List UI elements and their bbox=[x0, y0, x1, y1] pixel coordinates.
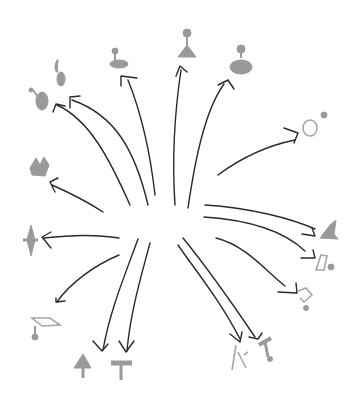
hook-icon bbox=[56, 60, 65, 86]
cone-lamp-icon bbox=[178, 29, 196, 57]
arrow-to-t-stool bbox=[119, 243, 150, 352]
arrow-to-crown bbox=[50, 178, 103, 212]
arrow-to-saxophone bbox=[53, 104, 130, 205]
arrow-to-cone-lamp bbox=[174, 66, 187, 205]
bird-figure-icon bbox=[320, 220, 338, 239]
funnel-icon bbox=[316, 255, 334, 270]
spindle-icon bbox=[23, 225, 38, 256]
t-stool-icon bbox=[111, 363, 132, 380]
arrow-to-chair bbox=[216, 238, 297, 293]
arrow-to-t-figure bbox=[183, 238, 262, 339]
arrow-to-hook bbox=[70, 96, 148, 205]
radial-sketch-diagram bbox=[0, 0, 356, 410]
blob-knob-icon bbox=[230, 45, 252, 74]
arrow-to-spindle bbox=[42, 232, 119, 248]
arrow-to-blob-knob bbox=[188, 80, 234, 208]
twig-figure-icon bbox=[232, 345, 248, 370]
graduation-cap-icon bbox=[32, 318, 60, 340]
arrow-to-bird-figure bbox=[205, 205, 315, 236]
arrow-to-twig-figure bbox=[178, 245, 242, 342]
arrow-to-ring bbox=[218, 128, 298, 175]
mushroom-icon bbox=[74, 354, 91, 378]
chair-outline-icon bbox=[298, 288, 312, 311]
arrow-to-disc-stand bbox=[121, 76, 155, 195]
crown-scribble-icon bbox=[30, 157, 49, 176]
saxophone-icon bbox=[29, 88, 48, 110]
t-figure-icon bbox=[259, 338, 273, 362]
arrow-to-graduation-cap bbox=[56, 255, 119, 302]
disc-stand-icon bbox=[110, 48, 128, 68]
ring-icon bbox=[303, 112, 327, 136]
